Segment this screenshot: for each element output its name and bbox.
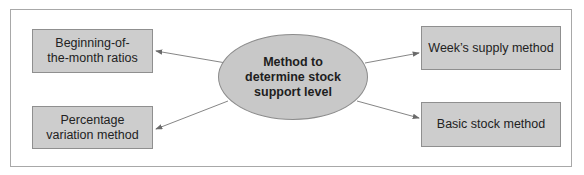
node-label: Week’s supply method	[428, 41, 553, 56]
arrow-to-percentage-variation	[156, 101, 228, 129]
center-label: Method to determine stock support level	[243, 55, 343, 100]
center-node-stock-support-method: Method to determine stock support level	[218, 34, 368, 120]
node-percentage-variation: Percentage variation method	[32, 106, 153, 149]
arrow-to-weeks-supply	[365, 53, 419, 63]
node-basic-stock: Basic stock method	[421, 102, 561, 147]
arrow-to-beginning-of-month	[156, 51, 226, 63]
node-label: Basic stock method	[437, 117, 545, 132]
node-weeks-supply: Week’s supply method	[421, 26, 561, 70]
node-beginning-of-month: Beginning-of-the-month ratios	[32, 29, 153, 73]
node-label: Percentage variation method	[40, 113, 145, 143]
node-label: Beginning-of-the-month ratios	[45, 36, 140, 66]
arrow-to-basic-stock	[357, 101, 419, 118]
